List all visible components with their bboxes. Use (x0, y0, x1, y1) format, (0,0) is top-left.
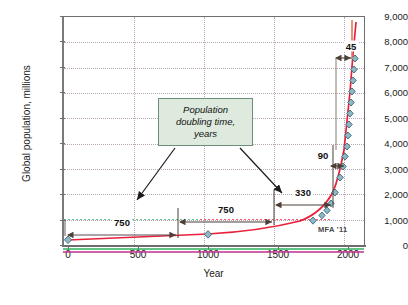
y-tick-mark (60, 220, 65, 221)
x-tick-label-1000: 1000 (197, 249, 219, 260)
y-tick-label-8000: 8,000 (352, 36, 408, 47)
y-tick-mark (60, 169, 65, 170)
gridline-vertical (134, 17, 135, 245)
callout-text: Population doubling time, years (176, 104, 235, 140)
annotation-label-45: 45 (344, 41, 359, 52)
y-tick-label-4000: 4,000 (352, 138, 408, 149)
y-tick-mark (60, 41, 65, 42)
y-tick-label-1000: 1,000 (352, 214, 408, 225)
gridline-horizontal (64, 68, 364, 69)
callout-box: Population doubling time, years (158, 98, 253, 146)
x-tick-label-1500: 1500 (267, 249, 289, 260)
y-tick-label-7000: 7,000 (352, 61, 408, 72)
gridline-horizontal (64, 42, 364, 43)
y-tick-label-5000: 5,000 (352, 112, 408, 123)
y-tick-mark (60, 118, 65, 119)
gridline-horizontal (64, 169, 364, 170)
signature-label: MFA '11 (318, 225, 347, 234)
x-tick-label-500: 500 (130, 249, 147, 260)
gridline-horizontal (64, 93, 364, 94)
chart-root: Global population, millions 9,000 8,000 … (0, 0, 408, 305)
gridline-horizontal (64, 220, 364, 221)
annotation-label-330: 330 (293, 187, 313, 198)
y-tick-mark (60, 67, 65, 68)
y-tick-mark (60, 143, 65, 144)
x-axis-line (62, 245, 366, 247)
y-tick-mark (60, 16, 65, 17)
annotation-label-90: 90 (316, 150, 331, 161)
gridline-vertical (274, 17, 275, 245)
y-axis-label: Global population, millions (21, 24, 32, 224)
x-tick-label-0: 0 (65, 249, 71, 260)
y-tick-mark (60, 194, 65, 195)
gridline-horizontal (64, 194, 364, 195)
y-tick-label-9000: 9,000 (352, 11, 408, 22)
y-tick-label-6000: 6,000 (352, 87, 408, 98)
x-axis-label: Year (62, 268, 365, 279)
y-tick-mark (60, 92, 65, 93)
annotation-label-750-a: 750 (112, 217, 132, 228)
y-tick-label-3000: 3,000 (352, 163, 408, 174)
annotation-label-750-b: 750 (216, 204, 236, 215)
y-tick-label-2000: 2,000 (352, 189, 408, 200)
x-tick-label-2000: 2000 (337, 249, 359, 260)
